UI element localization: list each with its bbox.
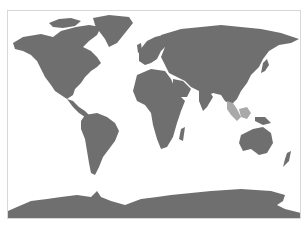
antarctica <box>8 189 301 219</box>
new-zealand <box>283 151 291 167</box>
arctic-islands <box>49 18 81 28</box>
madagascar <box>179 127 185 141</box>
south-america <box>81 113 119 175</box>
australia <box>239 127 273 155</box>
central-america <box>67 99 89 117</box>
malay-peninsula-highlight <box>227 101 241 121</box>
greenland <box>93 15 133 47</box>
japan <box>261 59 269 73</box>
north-america <box>13 25 101 99</box>
new-guinea <box>255 117 271 125</box>
map-frame <box>7 10 301 219</box>
highlighted-region <box>227 101 251 121</box>
world-map <box>8 11 301 219</box>
land-masses <box>8 15 301 219</box>
